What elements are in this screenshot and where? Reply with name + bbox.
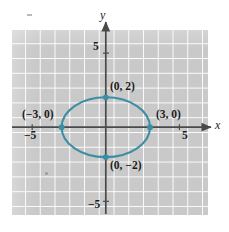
annotation-bottom-vertex: (0, −2) — [110, 160, 141, 172]
vertex-point-right — [147, 124, 153, 130]
annotation-right-vertex: (3, 0) — [156, 109, 181, 121]
annotation-top-vertex: (0, 2) — [110, 81, 135, 93]
vertex-point-left — [59, 124, 65, 130]
y-axis-label: y — [100, 9, 105, 21]
x-axis-label: x — [215, 119, 220, 131]
y-tick-label-negative-5: −5 — [88, 199, 100, 211]
vertex-point-bottom — [103, 154, 109, 160]
graph-figure: y x 5 −5 5 −5 (0, 2) (0, −2) (3, 0) (−3,… — [0, 0, 229, 232]
x-tick-label-negative-5: −5 — [24, 130, 36, 142]
y-tick-label-positive-5: 5 — [93, 41, 99, 53]
x-tick-label-positive-5: 5 — [182, 130, 188, 142]
annotation-left-vertex: (−3, 0) — [22, 109, 53, 121]
vertex-point-top — [103, 94, 109, 100]
